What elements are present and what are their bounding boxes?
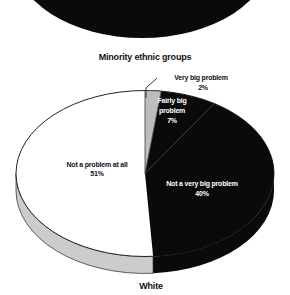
charts-canvas: Minority ethnic groups Very big problem … <box>0 0 290 295</box>
label-very-big-problem: Very big problem <box>174 74 228 82</box>
label-very-big-problem-value: 2% <box>198 84 209 91</box>
label-fairly-big-problem-value: 7% <box>167 117 178 124</box>
top-pie-black-slice <box>13 0 271 38</box>
pie-charts-figure: Minority ethnic groups Very big problem … <box>0 0 290 295</box>
top-chart-title: Minority ethnic groups <box>99 52 192 62</box>
label-fairly-big-problem-2: problem <box>159 107 185 115</box>
white-pie-chart: Very big problem 2% Fairly big problem 7… <box>16 74 274 291</box>
label-not-a-problem-at-all-value: 51% <box>90 170 104 177</box>
label-not-a-very-big-problem-value: 40% <box>195 190 209 197</box>
top-pie-chart: Minority ethnic groups <box>13 0 271 62</box>
bottom-chart-title: White <box>139 281 163 291</box>
label-not-a-problem-at-all: Not a problem at all <box>67 161 128 169</box>
label-fairly-big-problem-1: Fairly big <box>157 97 186 105</box>
label-not-a-very-big-problem: Not a very big problem <box>166 180 237 188</box>
